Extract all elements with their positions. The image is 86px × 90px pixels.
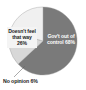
pie-chart: Doesn't feel that way 26% Gov't out of c… (0, 0, 86, 90)
slice-label-doesnt-feel-that-way: Doesn't feel that way 26% (7, 27, 37, 48)
slice-label-no-opinion: No opinion 6% (3, 78, 38, 84)
slice-label-gov-out-of-control: Gov't out of control 68% (44, 33, 78, 45)
no-opinion-leader-line (14, 67, 25, 78)
